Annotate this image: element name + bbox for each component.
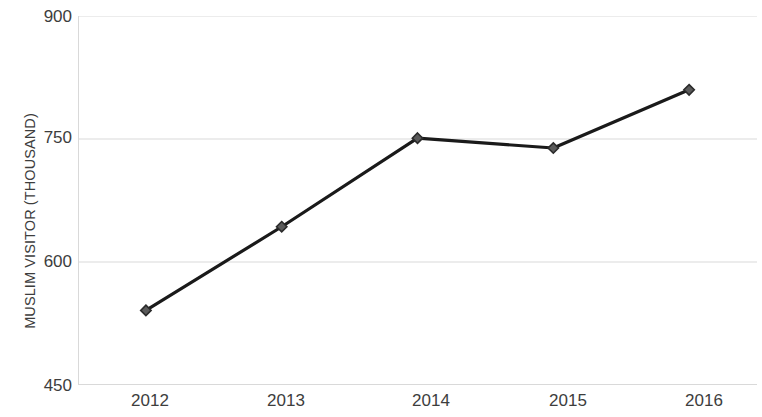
gridlines [78, 16, 757, 385]
x-axis-tick-labels: 2012 2013 2014 2015 2016 [0, 392, 762, 417]
y-tick-label-750: 750 [26, 129, 72, 146]
axis-lines [78, 16, 757, 385]
series-line-muslim-visitor [146, 90, 689, 311]
plot-area [78, 16, 757, 385]
series-markers [141, 85, 695, 316]
y-tick-label-600: 600 [26, 253, 72, 270]
x-tick-label-2013: 2013 [267, 392, 305, 409]
x-tick-label-2015: 2015 [549, 392, 587, 409]
plot-svg [78, 16, 757, 385]
line-chart: MUSLIM VISITOR (THOUSAND) 900 750 600 45… [0, 0, 762, 417]
data-point-2016 [684, 85, 694, 95]
x-tick-label-2014: 2014 [412, 392, 450, 409]
y-tick-label-900: 900 [26, 8, 72, 25]
x-tick-label-2016: 2016 [685, 392, 723, 409]
y-axis-tick-labels: 900 750 600 450 [24, 0, 72, 417]
data-point-2015 [548, 143, 558, 153]
x-tick-label-2012: 2012 [131, 392, 169, 409]
